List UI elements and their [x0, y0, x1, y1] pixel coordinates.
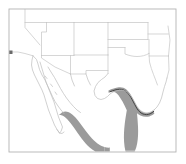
map-figure: Southwestern United States and Northern …: [0, 0, 186, 164]
left-edge-tick: [9, 51, 13, 55]
gulf-coast-band-tail: [125, 150, 135, 151]
map-canvas: [0, 0, 186, 164]
map-background: [0, 0, 186, 164]
edge-marks-layer: [9, 51, 13, 55]
